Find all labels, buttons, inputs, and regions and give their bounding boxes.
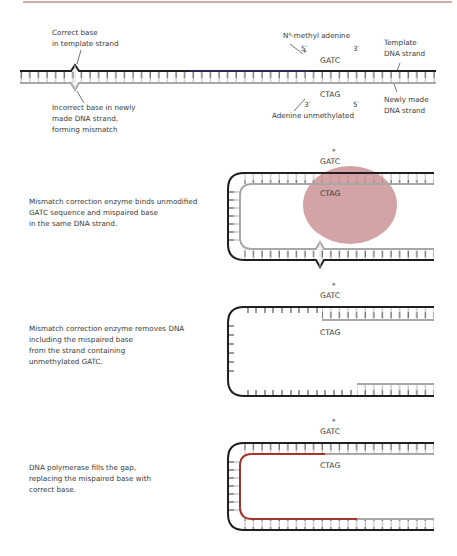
panel-4-caption: DNA polymerase fills the gap, replacing … (29, 462, 151, 495)
enzyme-blob (303, 166, 397, 244)
label-methyl-adenine: N⁶-methyl adenine (283, 31, 351, 40)
label-incorrect-base-3: forming mismatch (52, 125, 118, 134)
label-correct-base-1: Correct base (52, 28, 98, 37)
leader-template (397, 63, 400, 71)
caption-line: including the mispaired base (29, 334, 184, 345)
label-template-1: Template (383, 38, 417, 47)
label-incorrect-base-1: Incorrect base in newly (52, 103, 136, 112)
p2-seq-ctag: CTAG (320, 189, 340, 198)
panel-1-duplex (20, 65, 436, 90)
label-adenine-unmethylated: Adenine unmethylated (272, 111, 354, 120)
label-template-2: DNA strand (384, 49, 425, 58)
leader-new-strand (394, 84, 397, 92)
panel-3-caption: Mismatch correction enzyme removes DNA i… (29, 323, 184, 367)
p3-seq-gatc: GATC (320, 291, 340, 300)
caption-line: Mismatch correction enzyme binds unmodif… (29, 196, 197, 207)
caption-line: in the same DNA strand. (29, 218, 197, 229)
seq-ctag-bottom: CTAG (320, 90, 340, 99)
label-correct-base-2: in template strand (52, 39, 119, 48)
label-5prime-bottom: 5′ (353, 100, 360, 109)
label-5prime-top-real: 5′ (301, 44, 308, 53)
label-incorrect-base-2: made DNA strand, (52, 114, 118, 123)
caption-line: unmethylated GATC. (29, 356, 184, 367)
p4-star: * (332, 417, 336, 426)
caption-line: correct base. (29, 484, 151, 495)
seq-gatc-top: GATC (320, 56, 340, 65)
label-3prime-bottom: 3′ (304, 100, 311, 109)
leader-incorrect-base (77, 91, 84, 103)
caption-line: DNA polymerase fills the gap, (29, 462, 151, 473)
caption-line: GATC sequence and mispaired base (29, 207, 197, 218)
panel-2-caption: Mismatch correction enzyme binds unmodif… (29, 196, 197, 229)
caption-line: from the strand containing (29, 345, 184, 356)
label-new-strand-1: Newly made (384, 95, 429, 104)
p3-star: * (332, 281, 336, 290)
label-3prime-top: 3′ (353, 44, 360, 53)
p2-star: * (332, 147, 336, 156)
p2-seq-gatc: GATC (320, 157, 340, 166)
caption-line: Mismatch correction enzyme removes DNA (29, 323, 184, 334)
panel-4-loop (228, 443, 434, 530)
panel-3-loop (228, 307, 434, 396)
leader-correct-base (77, 50, 81, 64)
p4-seq-gatc: GATC (320, 427, 340, 436)
caption-line: replacing the mispaired base with (29, 473, 151, 484)
label-new-strand-2: DNA strand (384, 106, 425, 115)
panel-2-loop (228, 166, 434, 267)
p4-seq-ctag: CTAG (320, 461, 340, 470)
p3-seq-ctag: CTAG (320, 328, 340, 337)
